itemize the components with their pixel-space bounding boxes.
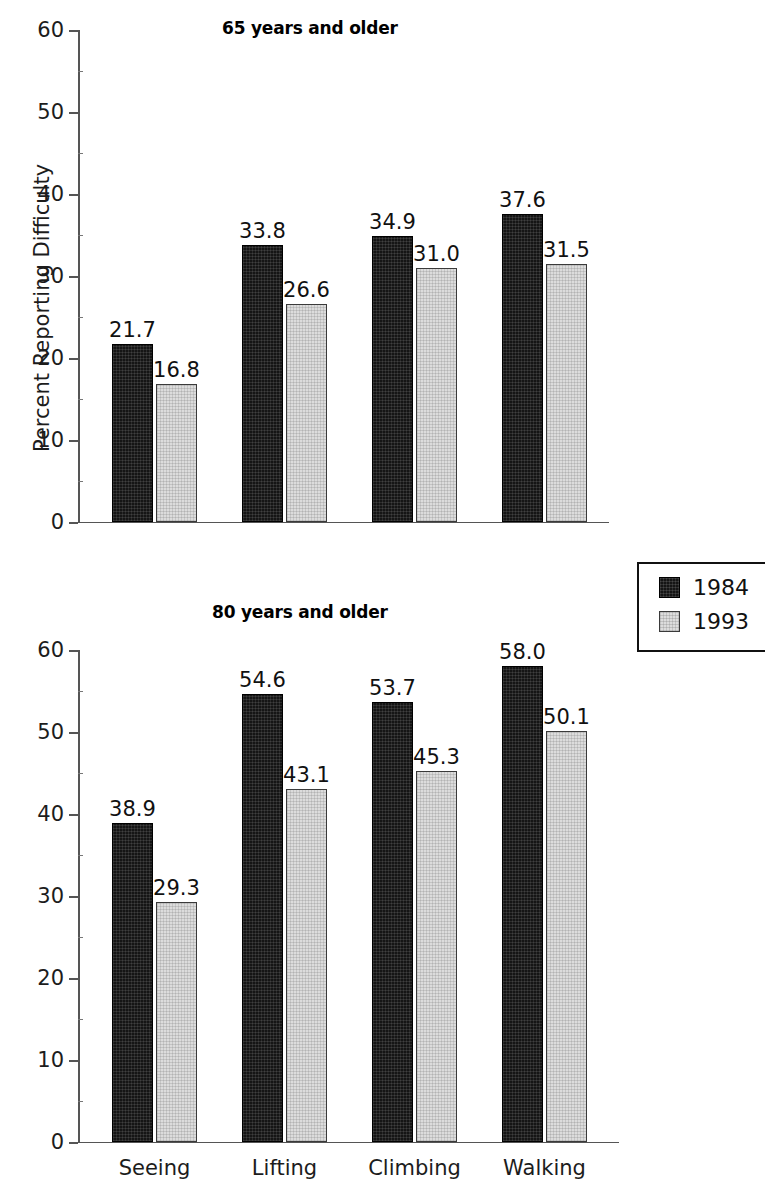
- chart-title: 80 years and older: [212, 602, 388, 622]
- y-axis-tick: [69, 650, 78, 652]
- y-axis-tick-label: 30: [20, 884, 64, 908]
- y-axis-minor-tick: [78, 691, 83, 692]
- bar-walking-1984: [502, 666, 543, 1142]
- y-axis-minor-tick: [78, 399, 83, 400]
- plot-area: 010203040506038.929.3Seeing54.643.1Lifti…: [78, 650, 618, 1142]
- bar-climbing-1984: [372, 236, 413, 522]
- bar-value-label: 31.0: [413, 242, 460, 266]
- y-axis-minor-tick: [78, 71, 83, 72]
- x-axis-category-label: Lifting: [252, 1156, 317, 1180]
- y-axis-minor-tick: [78, 855, 83, 856]
- bar-value-label: 38.9: [109, 797, 156, 821]
- y-axis-tick: [69, 978, 78, 980]
- bar-climbing-1993: [416, 268, 457, 522]
- y-axis-tick-label: 40: [20, 802, 64, 826]
- bar-lifting-1984: [242, 694, 283, 1142]
- y-axis-minor-tick: [78, 153, 83, 154]
- x-axis-category-label: Climbing: [368, 1156, 461, 1180]
- y-axis-tick-label: 10: [20, 1048, 64, 1072]
- y-axis-tick-label: 30: [20, 264, 64, 288]
- bar-lifting-1984: [242, 245, 283, 522]
- legend-item-1984: 1984: [659, 576, 749, 598]
- bar-value-label: 37.6: [499, 188, 546, 212]
- y-axis-tick: [69, 112, 78, 114]
- y-axis-label: Percent Reporting Difficulty: [30, 164, 54, 452]
- y-axis-tick: [69, 440, 78, 442]
- bar-climbing-1993: [416, 771, 457, 1142]
- bar-value-label: 50.1: [543, 705, 590, 729]
- y-axis-tick: [69, 358, 78, 360]
- bar-seeing-1984: [112, 823, 153, 1142]
- figure-root: 65 years and older Percent Reporting Dif…: [0, 0, 765, 1186]
- y-axis-minor-tick: [78, 1101, 83, 1102]
- bar-climbing-1984: [372, 702, 413, 1142]
- y-axis-tick: [69, 814, 78, 816]
- bar-value-label: 16.8: [153, 358, 200, 382]
- y-axis-tick-label: 0: [20, 510, 64, 534]
- y-axis-minor-tick: [78, 235, 83, 236]
- y-axis-tick-label: 50: [20, 100, 64, 124]
- chart-panel-80-and-older: 80 years and older Percent Reporting Dif…: [0, 560, 765, 1186]
- y-axis-tick: [69, 1142, 78, 1144]
- y-axis-minor-tick: [78, 773, 83, 774]
- y-axis-minor-tick: [78, 937, 83, 938]
- y-axis-tick: [69, 732, 78, 734]
- bar-value-label: 26.6: [283, 278, 330, 302]
- y-axis-line: [78, 650, 80, 1142]
- bar-seeing-1993: [156, 384, 197, 522]
- x-axis-category-label: Seeing: [119, 1156, 191, 1180]
- chart-panel-65-and-older: 65 years and older Percent Reporting Dif…: [0, 0, 765, 556]
- y-axis-tick: [69, 194, 78, 196]
- bar-walking-1984: [502, 214, 543, 522]
- bar-value-label: 21.7: [109, 318, 156, 342]
- y-axis-tick-label: 20: [20, 966, 64, 990]
- bar-seeing-1984: [112, 344, 153, 522]
- legend-label: 1993: [693, 609, 749, 634]
- legend-swatch-icon: [659, 577, 680, 598]
- y-axis-minor-tick: [78, 481, 83, 482]
- y-axis-tick-label: 60: [20, 18, 64, 42]
- y-axis-tick: [69, 276, 78, 278]
- bar-walking-1993: [546, 731, 587, 1142]
- y-axis-tick: [69, 522, 78, 524]
- bar-value-label: 43.1: [283, 763, 330, 787]
- legend-item-1993: 1993: [659, 610, 749, 632]
- y-axis-line: [78, 30, 80, 522]
- bar-value-label: 33.8: [239, 219, 286, 243]
- plot-area: 010203040506021.716.833.826.634.931.037.…: [78, 30, 608, 522]
- y-axis-minor-tick: [78, 317, 83, 318]
- y-axis-minor-tick: [78, 1019, 83, 1020]
- bar-value-label: 29.3: [153, 876, 200, 900]
- bar-lifting-1993: [286, 789, 327, 1142]
- bar-value-label: 54.6: [239, 668, 286, 692]
- bar-seeing-1993: [156, 902, 197, 1142]
- y-axis-tick: [69, 30, 78, 32]
- y-axis-tick-label: 50: [20, 720, 64, 744]
- y-axis-tick-label: 20: [20, 346, 64, 370]
- bar-value-label: 53.7: [369, 676, 416, 700]
- bar-value-label: 34.9: [369, 210, 416, 234]
- legend: 1984 1993: [637, 562, 765, 652]
- legend-label: 1984: [693, 575, 749, 600]
- legend-swatch-icon: [659, 611, 680, 632]
- y-axis-tick-label: 40: [20, 182, 64, 206]
- y-axis-tick-label: 10: [20, 428, 64, 452]
- bar-value-label: 58.0: [499, 640, 546, 664]
- bar-value-label: 45.3: [413, 745, 460, 769]
- y-axis-tick-label: 0: [20, 1130, 64, 1154]
- bar-walking-1993: [546, 264, 587, 522]
- bar-value-label: 31.5: [543, 238, 590, 262]
- y-axis-tick: [69, 1060, 78, 1062]
- y-axis-tick-label: 60: [20, 638, 64, 662]
- bar-lifting-1993: [286, 304, 327, 522]
- x-axis-category-label: Walking: [503, 1156, 586, 1180]
- y-axis-tick: [69, 896, 78, 898]
